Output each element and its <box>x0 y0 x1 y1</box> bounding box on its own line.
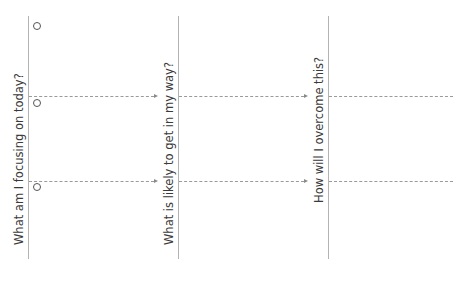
row-divider-2c <box>329 181 453 182</box>
row-divider-2a <box>29 181 154 182</box>
column-divider-3 <box>328 16 329 259</box>
arrow-right-icon <box>304 94 308 98</box>
checkbox-row-3[interactable] <box>33 183 41 191</box>
column-label-focus: What am I focusing on today? <box>12 73 26 245</box>
row-divider-2b <box>179 181 304 182</box>
column-label-obstacles: What is likely to get in my way? <box>162 62 176 245</box>
checkbox-row-2[interactable] <box>33 99 41 107</box>
row-divider-1c <box>329 96 453 97</box>
row-divider-1a <box>29 96 154 97</box>
column-label-overcome: How will I overcome this? <box>312 57 326 203</box>
column-divider-1 <box>28 16 29 259</box>
arrow-right-icon <box>154 179 158 183</box>
arrow-right-icon <box>304 179 308 183</box>
row-divider-1b <box>179 96 304 97</box>
checkbox-row-1[interactable] <box>33 22 41 30</box>
arrow-right-icon <box>154 94 158 98</box>
column-divider-2 <box>178 16 179 259</box>
